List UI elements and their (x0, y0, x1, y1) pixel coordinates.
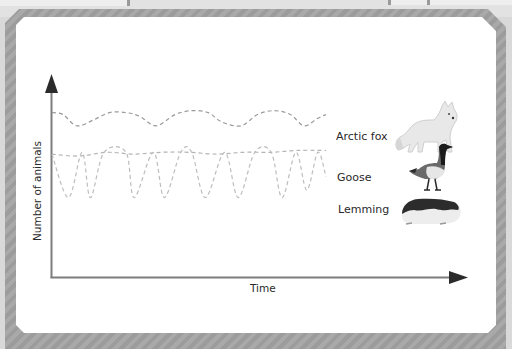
y-axis-arrowhead (45, 74, 58, 93)
x-axis-arrowhead (449, 271, 468, 284)
canada-goose-icon (405, 141, 465, 193)
legend-label-goose: Goose (337, 171, 371, 184)
y-axis-label: Number of animals (31, 141, 43, 241)
legend-label-lemming: Lemming (338, 203, 389, 216)
series-line-arctic-fox (52, 111, 326, 127)
series-line-goose (52, 150, 326, 156)
lemming-icon (400, 196, 462, 226)
x-axis-label: Time (250, 282, 276, 294)
legend-label-arctic-fox: Arctic fox (336, 130, 388, 143)
series-line-lemming (52, 147, 326, 198)
